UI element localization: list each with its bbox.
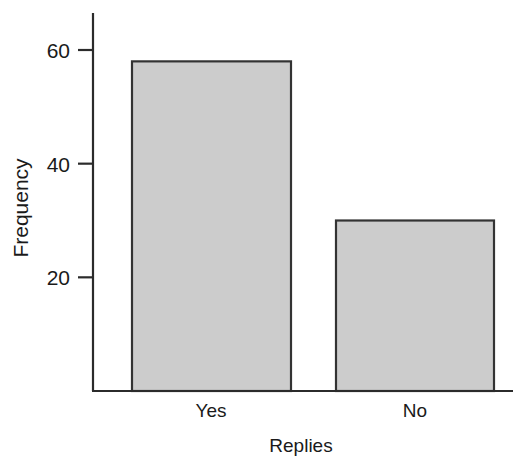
y-tick-label-60: 60 bbox=[47, 39, 70, 62]
y-tick-label-40: 40 bbox=[47, 153, 70, 176]
chart-canvas: 60 40 20 Yes No Replies Frequency bbox=[0, 0, 524, 464]
x-axis-title: Replies bbox=[269, 435, 332, 456]
y-axis-title: Frequency bbox=[9, 158, 32, 258]
bar-yes bbox=[132, 61, 291, 391]
bar-chart-figure: 60 40 20 Yes No Replies Frequency bbox=[0, 0, 524, 464]
bar-no bbox=[336, 221, 494, 392]
x-tick-label-yes: Yes bbox=[196, 400, 227, 421]
x-tick-label-no: No bbox=[403, 400, 427, 421]
y-tick-label-20: 20 bbox=[47, 266, 70, 289]
